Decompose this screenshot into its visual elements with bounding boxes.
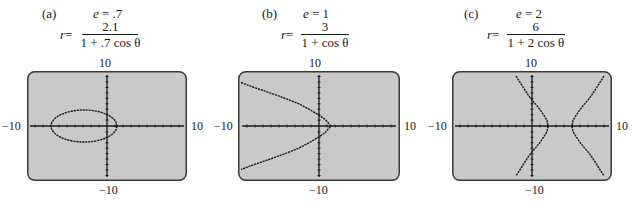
figure-label: (a) [42, 6, 56, 22]
numerator: 3 [301, 20, 349, 35]
equals-sign: = [286, 27, 293, 43]
figure-label: (b) [262, 6, 277, 22]
xmax-label: 10 [404, 119, 416, 134]
xmax-label: 10 [191, 119, 203, 134]
xmin-label: −10 [428, 119, 447, 134]
xmin-label: −10 [214, 119, 233, 134]
polar-equation: r = 2.1 1 + .7 cos θ [60, 20, 143, 50]
xmin-label: −10 [2, 119, 21, 134]
ymax-label: 10 [99, 56, 111, 71]
denominator: 1 + cos θ [299, 35, 350, 50]
fraction: 2.1 1 + .7 cos θ [78, 20, 142, 50]
xmax-label: 10 [616, 119, 628, 134]
e-value: = 2 [522, 6, 542, 21]
calculator-screen [452, 71, 612, 181]
denominator: 1 + 2 cos θ [505, 35, 566, 50]
ymin-label: −10 [99, 183, 118, 198]
ymax-label: 10 [525, 56, 537, 71]
ymin-label: −10 [525, 183, 544, 198]
polar-equation: r = 6 1 + 2 cos θ [487, 20, 566, 50]
denominator: 1 + .7 cos θ [78, 35, 142, 50]
calculator-screen [27, 71, 187, 181]
fraction: 6 1 + 2 cos θ [505, 20, 566, 50]
ymin-label: −10 [309, 183, 328, 198]
numerator: 6 [507, 20, 565, 35]
polar-equation: r = 3 1 + cos θ [281, 20, 351, 50]
fraction: 3 1 + cos θ [299, 20, 350, 50]
figure-label: (c) [464, 6, 478, 22]
equals-sign: = [65, 27, 72, 43]
numerator: 2.1 [82, 20, 138, 35]
equals-sign: = [492, 27, 499, 43]
ymax-label: 10 [309, 56, 321, 71]
calculator-screen [238, 71, 400, 181]
